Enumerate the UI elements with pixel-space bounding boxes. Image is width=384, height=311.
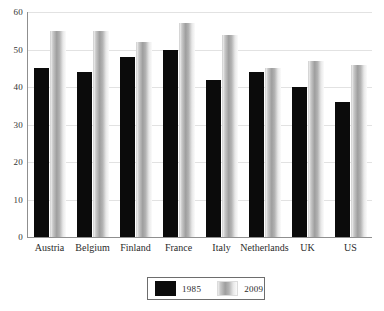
y-axis-tick-label: 40 [14,83,23,92]
bar-france-2009 [179,23,195,237]
bar-finland-2009 [136,42,152,237]
black-solid-swatch-icon [155,281,176,296]
bar-netherlands-1985 [249,72,264,237]
bar-group [243,12,286,237]
bar-us-2009 [351,65,367,238]
bar-chart-figure: 0102030405060 AustriaBelgiumFinlandFranc… [0,0,384,311]
bar-italy-2009 [222,35,238,238]
x-axis-label-us: US [344,243,357,253]
bar-group [28,12,71,237]
bar-group [286,12,329,237]
bar-group [329,12,372,237]
y-axis-tick-label: 50 [14,45,23,54]
y-axis-tick-label: 60 [14,8,23,17]
bar-finland-1985 [120,57,135,237]
bar-netherlands-2009 [265,68,281,237]
x-axis-label-france: France [165,243,192,253]
legend-label-2009: 2009 [244,284,263,294]
bar-us-1985 [335,102,350,237]
bars-layer [28,12,372,237]
legend: 1985 2009 [147,277,265,300]
plot-area: 0102030405060 [27,12,372,237]
x-axis-line [27,237,372,238]
legend-item-1985: 1985 [155,278,201,299]
y-axis-tick-label: 10 [14,195,23,204]
bar-austria-1985 [34,68,49,237]
x-axis-tick-labels: AustriaBelgiumFinlandFranceItalyNetherla… [27,243,372,259]
y-axis-tick-label: 20 [14,158,23,167]
bar-uk-2009 [308,61,324,237]
bar-uk-1985 [292,87,307,237]
bar-group [200,12,243,237]
bar-group [114,12,157,237]
legend-label-1985: 1985 [182,284,201,294]
bar-belgium-1985 [77,72,92,237]
bar-france-1985 [163,50,178,238]
bar-group [71,12,114,237]
x-axis-label-uk: UK [300,243,314,253]
bar-group [157,12,200,237]
gray-gradient-swatch-icon [217,281,238,296]
x-axis-label-italy: Italy [212,243,230,253]
x-axis-label-finland: Finland [120,243,151,253]
x-axis-label-austria: Austria [35,243,64,253]
bar-belgium-2009 [93,31,109,237]
legend-item-2009: 2009 [217,278,263,299]
bar-austria-2009 [50,31,66,237]
y-axis-tick-label: 0 [18,233,23,242]
bar-italy-1985 [206,80,221,238]
x-axis-label-netherlands: Netherlands [240,243,288,253]
x-axis-label-belgium: Belgium [75,243,109,253]
y-axis-tick-label: 30 [14,120,23,129]
